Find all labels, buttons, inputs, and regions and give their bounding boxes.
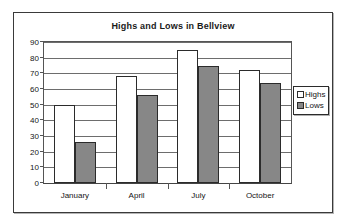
y-axis-tick-label: 30 (30, 132, 39, 141)
y-axis-tick-label: 50 (30, 100, 39, 109)
x-axis-tick-mark (229, 183, 230, 189)
legend-label-lows: Lows (305, 101, 324, 110)
bar-highs-october (239, 70, 260, 183)
y-axis-tick-mark (40, 119, 44, 120)
legend-swatch-highs-icon (297, 91, 304, 98)
y-axis-tick-mark (40, 57, 44, 58)
bar-highs-july (177, 50, 198, 183)
bar-lows-october (260, 83, 281, 183)
y-axis-tick-label: 90 (30, 38, 39, 47)
bar-highs-april (116, 76, 137, 183)
y-axis-tick-label: 40 (30, 116, 39, 125)
legend-label-highs: Highs (305, 90, 325, 99)
y-axis-tick-label: 10 (30, 163, 39, 172)
x-axis-category-label: April (129, 191, 145, 200)
bar-lows-january (75, 142, 96, 183)
y-axis-tick-mark (40, 135, 44, 136)
y-axis-tick-mark (40, 104, 44, 105)
legend-item-highs[interactable]: Highs (297, 89, 325, 100)
y-axis-tick-label: 70 (30, 69, 39, 78)
bar-highs-january (54, 105, 75, 183)
y-axis-tick-mark (40, 151, 44, 152)
gridline (44, 58, 291, 59)
y-axis-tick-label: 80 (30, 53, 39, 62)
x-axis-tick-mark (168, 183, 169, 189)
bar-lows-april (137, 95, 158, 183)
x-axis-tick-mark (106, 183, 107, 189)
chart-title: Highs and Lows in Bellview (14, 21, 332, 31)
y-axis-tick-mark (40, 182, 44, 183)
gridline (44, 42, 291, 43)
plot-area: 9080706050403020100JanuaryAprilJulyOctob… (43, 41, 292, 184)
y-axis-tick-mark (40, 41, 44, 42)
y-axis-tick-mark (40, 88, 44, 89)
bar-lows-july (198, 66, 219, 184)
y-axis-tick-label: 60 (30, 85, 39, 94)
x-axis-category-label: October (246, 191, 274, 200)
y-axis-tick-mark (40, 166, 44, 167)
y-axis-tick-mark (40, 72, 44, 73)
legend-item-lows[interactable]: Lows (297, 100, 325, 111)
y-axis-tick-label: 0 (35, 179, 39, 188)
legend-swatch-lows-icon (297, 102, 304, 109)
chart-container: Highs and Lows in Bellview 9080706050403… (13, 12, 333, 213)
x-axis-category-label: July (191, 191, 205, 200)
x-axis-category-label: January (61, 191, 89, 200)
y-axis-tick-label: 20 (30, 147, 39, 156)
chart-legend: Highs Lows (293, 86, 329, 115)
